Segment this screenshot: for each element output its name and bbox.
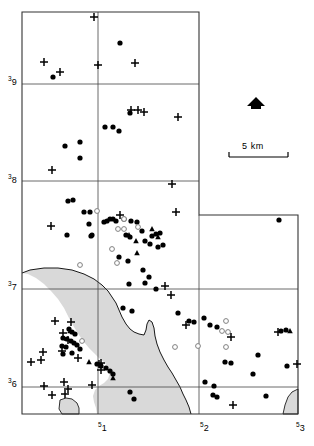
filled-circle-marker: [65, 198, 70, 203]
x-axis-label-51: 51: [98, 424, 107, 433]
plus-marker: [60, 378, 68, 386]
plus-series: [27, 13, 301, 409]
filled-circle-marker: [139, 228, 144, 233]
filled-circle-marker: [175, 310, 180, 315]
filled-circle-series: [50, 40, 289, 401]
plus-marker: [48, 166, 56, 174]
map-canvas: [0, 0, 314, 446]
plus-marker: [134, 106, 142, 114]
y-axis-label-38: 38: [8, 176, 17, 185]
filled-circle-marker: [131, 396, 136, 401]
open-circle-marker: [80, 339, 85, 344]
y-axis-label-36: 36: [8, 380, 17, 389]
filled-circle-marker: [110, 124, 115, 129]
filled-circle-marker: [70, 197, 75, 202]
filled-circle-marker: [87, 209, 92, 214]
filled-circle-marker: [86, 221, 91, 226]
filled-circle-marker: [72, 331, 77, 336]
open-circle-marker: [95, 209, 100, 214]
plus-marker: [39, 348, 47, 356]
filled-circle-marker: [222, 359, 227, 364]
filled-circle-marker: [142, 238, 147, 243]
open-circle-marker: [136, 225, 141, 230]
y-axis-label-37: 37: [8, 283, 17, 292]
x-axis-label-53: 53: [296, 424, 305, 433]
filled-circle-marker: [142, 280, 147, 285]
plus-marker: [229, 401, 237, 409]
filled-circle-marker: [120, 305, 125, 310]
small-inlet-shape: [59, 398, 79, 414]
filled-circle-marker: [186, 318, 191, 323]
filled-circle-marker: [69, 350, 74, 355]
open-circle-marker: [224, 345, 229, 350]
north-arrow: [247, 97, 265, 109]
plus-marker: [90, 13, 98, 21]
open-circle-marker: [226, 330, 231, 335]
filled-circle-marker: [202, 379, 207, 384]
filled-circle-marker: [50, 74, 55, 79]
filled-circle-marker: [77, 139, 82, 144]
filled-circle-marker: [255, 352, 260, 357]
filled-triangle-marker: [133, 238, 139, 243]
filled-circle-marker: [127, 110, 132, 115]
filled-circle-marker: [88, 233, 93, 238]
plus-marker: [167, 291, 175, 299]
bottom-right-corner-landform: [283, 389, 298, 414]
plus-marker: [59, 329, 67, 337]
x-axis-label-52: 52: [200, 424, 209, 433]
filled-circle-marker: [126, 281, 131, 286]
filled-circle-marker: [263, 393, 268, 398]
plus-marker: [40, 58, 48, 66]
filled-circle-marker: [125, 258, 130, 263]
plus-marker: [40, 382, 48, 390]
y-axis-label-39: 39: [8, 78, 17, 87]
filled-circle-marker: [134, 219, 139, 224]
plus-marker: [56, 68, 64, 76]
filled-circle-marker: [63, 344, 68, 349]
open-circle-marker: [122, 227, 127, 232]
plus-marker: [94, 61, 102, 69]
plus-marker: [293, 360, 301, 368]
filled-circle-marker: [283, 327, 288, 332]
filled-circle-marker: [147, 241, 152, 246]
data-points-layer: [27, 13, 301, 409]
filled-circle-marker: [153, 286, 158, 291]
plus-marker: [172, 208, 180, 216]
filled-circle-marker: [214, 324, 219, 329]
filled-circle-marker: [250, 371, 255, 376]
open-circle-marker: [115, 261, 120, 266]
open-circle-marker: [116, 227, 121, 232]
filled-circle-marker: [191, 319, 196, 324]
filled-circle-marker: [60, 351, 65, 356]
filled-circle-marker: [155, 244, 160, 249]
filled-circle-marker: [211, 383, 216, 388]
plus-marker: [27, 358, 35, 366]
filled-circle-marker: [64, 232, 69, 237]
filled-circle-marker: [128, 218, 133, 223]
open-circle-marker: [224, 319, 229, 324]
plus-marker: [37, 356, 45, 364]
filled-circle-marker: [113, 218, 118, 223]
plus-marker: [140, 108, 148, 116]
shaded-region-group: [22, 268, 298, 414]
filled-circle-marker: [116, 254, 121, 259]
filled-circle-marker: [102, 124, 107, 129]
filled-circle-marker: [160, 242, 165, 247]
filled-circle-marker: [116, 128, 121, 133]
open-circle-marker: [110, 247, 115, 252]
plus-marker: [74, 354, 82, 362]
filled-circle-marker: [77, 346, 82, 351]
filled-circle-marker: [77, 155, 82, 160]
open-circle-marker: [196, 344, 201, 349]
north-arrow-glyph: [247, 97, 265, 109]
filled-circle-marker: [278, 328, 283, 333]
plus-marker: [88, 381, 96, 389]
distribution-map-figure: 39 38 37 36 51 52 53 5 km: [0, 0, 314, 446]
plus-marker: [47, 222, 55, 230]
open-circle-marker: [173, 345, 178, 350]
filled-circle-marker: [214, 394, 219, 399]
filled-circle-marker: [284, 363, 289, 368]
open-circle-marker: [122, 217, 127, 222]
open-circle-marker: [78, 263, 83, 268]
filled-circle-marker: [140, 267, 145, 272]
